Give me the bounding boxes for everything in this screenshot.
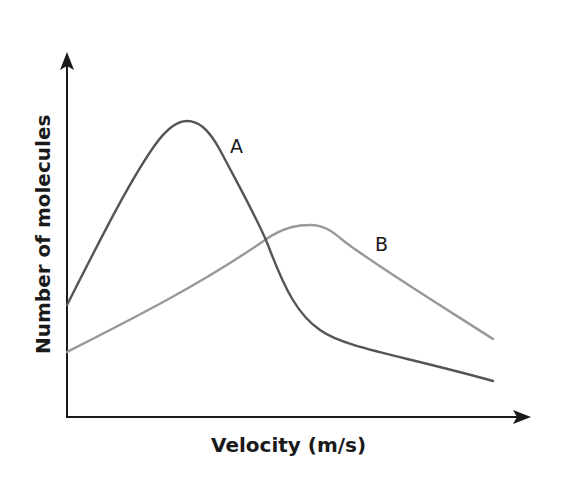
curve-a-label: A	[230, 135, 243, 157]
curve-b	[67, 225, 493, 352]
chart: A B Velocity (m/s) Number of molecules	[0, 0, 561, 485]
curve-b-label: B	[375, 233, 388, 255]
y-axis-label: Number of molecules	[31, 115, 55, 354]
curve-a	[67, 121, 493, 381]
x-axis-label: Velocity (m/s)	[211, 433, 366, 457]
